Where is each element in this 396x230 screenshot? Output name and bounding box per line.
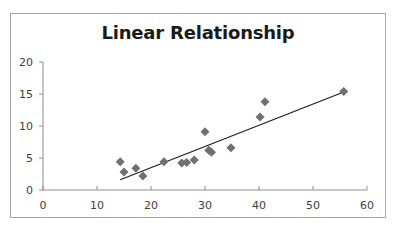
scatter-plot: 051015200102030405060 (0, 0, 396, 230)
data-point-diamond (138, 171, 147, 180)
trendline (120, 92, 344, 180)
axes: 051015200102030405060 (19, 56, 374, 212)
y-tick-label: 15 (19, 88, 33, 101)
x-tick-label: 0 (40, 199, 47, 212)
x-tick-label: 10 (90, 199, 104, 212)
data-point-diamond (131, 164, 140, 173)
data-points (116, 87, 349, 180)
x-tick-label: 50 (306, 199, 320, 212)
data-point-diamond (159, 157, 168, 166)
x-tick-label: 30 (198, 199, 212, 212)
data-point-diamond (226, 143, 235, 152)
data-point-diamond (339, 87, 348, 96)
data-point-diamond (120, 168, 129, 177)
x-tick-label: 20 (144, 199, 158, 212)
y-tick-label: 5 (26, 152, 33, 165)
data-point-diamond (116, 157, 125, 166)
y-tick-label: 0 (26, 184, 33, 197)
data-point-diamond (260, 97, 269, 106)
y-tick-label: 10 (19, 120, 33, 133)
data-point-diamond (190, 155, 199, 164)
y-tick-label: 20 (19, 56, 33, 69)
data-point-diamond (201, 127, 210, 136)
data-point-diamond (256, 113, 265, 122)
x-tick-label: 60 (360, 199, 374, 212)
x-tick-label: 40 (252, 199, 266, 212)
trendline-segment (120, 92, 344, 180)
